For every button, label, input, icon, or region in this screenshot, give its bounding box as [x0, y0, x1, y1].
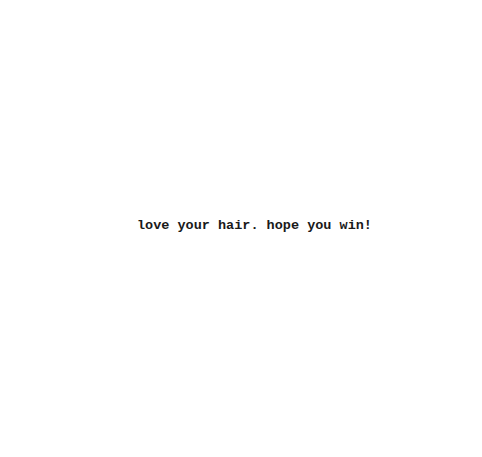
message-text: love your hair. hope you win!	[137, 218, 372, 234]
